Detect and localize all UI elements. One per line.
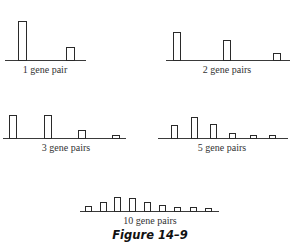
bar-2 [67,48,75,61]
x-label-3-gene-pairs: 3 gene pairs [42,142,90,153]
histogram-2-gene-pairs: 2 gene pairs [166,33,290,76]
figure-caption: Figure 14–9 [112,228,187,242]
x-label-5-gene-pairs: 5 gene pairs [198,142,246,153]
histogram-5-gene-pairs: 5 gene pairs [158,118,288,154]
histogram-3-gene-pairs: 3 gene pairs [3,116,126,154]
bar-6 [160,206,166,212]
bar-9 [206,209,212,212]
figure-canvas: 1 gene pair 2 gene pairs 3 gene pairs 5 … [0,0,292,247]
bar-5 [145,203,151,212]
bar-2 [192,118,198,139]
bar-2 [101,203,107,212]
x-label-10-gene-pairs: 10 gene pairs [123,215,176,226]
bar-3 [274,54,281,61]
bar-1 [86,207,92,212]
bar-1 [19,22,27,61]
bar-5 [251,136,257,139]
bar-6 [270,136,276,139]
histogram-1-gene-pair: 1 gene pair [5,22,86,76]
bar-1 [174,33,181,61]
bar-2 [224,41,231,61]
bar-3 [115,198,121,212]
histogram-10-gene-pairs: 10 gene pairs [80,198,219,227]
bar-4 [130,199,136,212]
bar-2 [45,116,52,139]
bar-1 [172,126,178,139]
bar-7 [175,208,181,212]
bar-3 [79,131,86,139]
bar-4 [230,134,236,139]
x-label-2-gene-pairs: 2 gene pairs [203,64,251,75]
bar-4 [113,136,120,139]
bar-3 [211,125,217,139]
x-label-1-gene-pair: 1 gene pair [23,64,68,75]
bar-8 [191,208,197,212]
bar-1 [10,116,17,139]
